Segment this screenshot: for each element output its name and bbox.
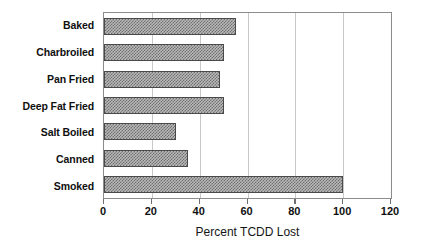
bar-deep-fat-fried: [104, 97, 224, 114]
bar-slot-5: [104, 145, 391, 171]
plot-area: [103, 12, 392, 199]
y-axis-label-1: Charbroiled: [0, 39, 99, 66]
x-tick-label-60: 60: [240, 205, 252, 217]
bar-slot-0: [104, 13, 391, 39]
bar-slot-1: [104, 39, 391, 65]
y-axis-label-5: Canned: [0, 146, 99, 173]
y-axis-label-4: Salt Boiled: [0, 119, 99, 146]
bars-layer: [104, 13, 391, 198]
x-axis-ticks: [103, 199, 392, 204]
bar-slot-4: [104, 119, 391, 145]
x-tick-120: [390, 199, 391, 204]
x-tick-100: [342, 199, 343, 204]
bar-pan-fried: [104, 71, 220, 88]
bar-charbroiled: [104, 44, 224, 61]
bar-slot-3: [104, 92, 391, 118]
x-tick-label-40: 40: [193, 205, 205, 217]
x-axis-tick-labels: 020406080100120: [103, 205, 392, 221]
x-tick-0: [103, 199, 104, 204]
bar-chart: Baked Charbroiled Pan Fried Deep Fat Fri…: [0, 0, 425, 251]
x-tick-label-100: 100: [333, 205, 351, 217]
y-axis-label-0: Baked: [0, 12, 99, 39]
y-axis-category-labels: Baked Charbroiled Pan Fried Deep Fat Fri…: [0, 12, 99, 199]
bar-salt-boiled: [104, 123, 176, 140]
x-axis-title: Percent TCDD Lost: [103, 225, 392, 239]
x-tick-label-80: 80: [288, 205, 300, 217]
x-tick-80: [294, 199, 295, 204]
x-tick-40: [199, 199, 200, 204]
x-tick-20: [151, 199, 152, 204]
bar-smoked: [104, 176, 343, 193]
x-tick-label-120: 120: [381, 205, 399, 217]
bar-baked: [104, 18, 236, 35]
bar-canned: [104, 150, 188, 167]
bar-slot-6: [104, 172, 391, 198]
y-axis-label-2: Pan Fried: [0, 65, 99, 92]
bar-slot-2: [104, 66, 391, 92]
y-axis-label-6: Smoked: [0, 172, 99, 199]
x-tick-label-20: 20: [145, 205, 157, 217]
y-axis-label-3: Deep Fat Fried: [0, 92, 99, 119]
x-tick-60: [247, 199, 248, 204]
x-tick-label-0: 0: [100, 205, 106, 217]
